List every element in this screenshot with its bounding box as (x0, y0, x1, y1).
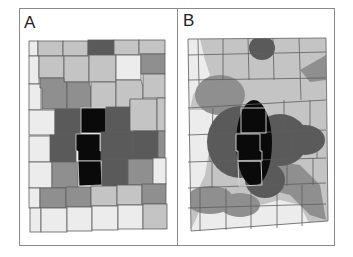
panel-b-density-map (0, 0, 353, 257)
